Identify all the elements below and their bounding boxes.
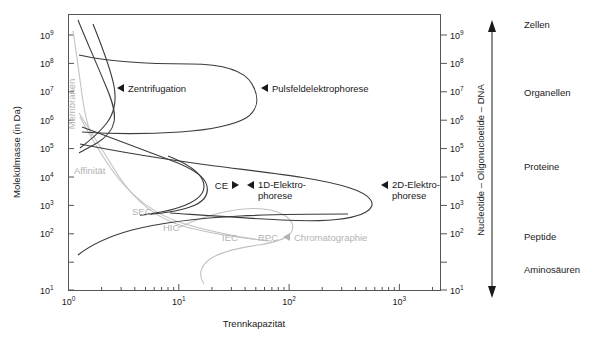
annotation-1d-elektrophorese-line1: 1D-Elektro- xyxy=(258,179,306,190)
figure-container: 109 108 107 106 105 104 103 102 101 Mole… xyxy=(0,0,603,345)
annotation-membranen: Membranen xyxy=(66,79,77,130)
chart-svg: 109 108 107 106 105 104 103 102 101 Mole… xyxy=(0,0,603,345)
category-label-aminosaeuren: Aminosäuren xyxy=(524,264,580,275)
category-label-zellen: Zellen xyxy=(524,19,550,30)
annotation-pulsfeldelektrophorese: Pulsfeldelektrophorese xyxy=(272,83,369,94)
annotation-iec: IEC xyxy=(222,232,238,243)
annotation-2d-elektrophorese-line1: 2D-Elektro- xyxy=(392,179,440,190)
annotation-2d-elektrophorese-line2: phorese xyxy=(392,190,426,201)
molecule-scale-label: Nucleotide – Oligonucloetide – DNA xyxy=(475,84,486,236)
annotation-ce: CE xyxy=(215,180,228,191)
category-label-peptide: Peptide xyxy=(524,231,556,242)
annotation-hic: HIC xyxy=(163,222,180,233)
annotation-rpc: RPC xyxy=(258,232,278,243)
x-axis-title: Trennkapazität xyxy=(223,318,286,329)
left-tick-mantissa: 10 xyxy=(40,31,50,41)
left-tick-exponent: 9 xyxy=(50,29,54,36)
category-label-proteine: Proteine xyxy=(524,161,559,172)
annotation-sec: SEC xyxy=(132,206,152,217)
annotation-affinitaet: Affinität xyxy=(74,165,106,176)
annotation-zentrifugation: Zentrifugation xyxy=(128,83,186,94)
category-label-organellen: Organellen xyxy=(524,87,570,98)
y-axis-title: Molekülmasse (in Da) xyxy=(11,106,22,198)
annotation-1d-elektrophorese-line2: phorese xyxy=(258,190,292,201)
annotation-chromatographie: Chromatographie xyxy=(294,232,367,243)
